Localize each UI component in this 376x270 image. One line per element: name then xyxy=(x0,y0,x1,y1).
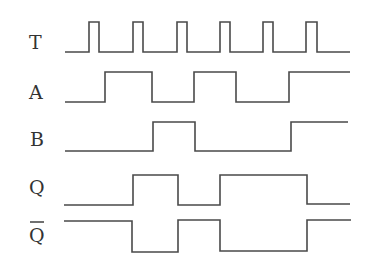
waveform-b xyxy=(65,122,348,151)
signal-label-q: Q xyxy=(29,176,45,198)
signal-q: Q xyxy=(29,175,350,205)
signal-label-a: A xyxy=(28,81,43,103)
waveform-q xyxy=(64,175,350,205)
waveform-q-bar xyxy=(64,220,351,252)
signal-a: A xyxy=(28,72,350,103)
signal-label-q-bar: Q xyxy=(29,224,45,246)
signal-label-t: T xyxy=(29,31,42,53)
signal-t: T xyxy=(29,22,350,53)
waveform-t xyxy=(65,22,350,52)
signal-label-b: B xyxy=(30,128,44,150)
signal-b: B xyxy=(30,122,348,151)
timing-diagram: T A B Q Q xyxy=(0,0,376,270)
waveform-a xyxy=(65,72,350,102)
signal-q-bar: Q xyxy=(29,220,351,252)
